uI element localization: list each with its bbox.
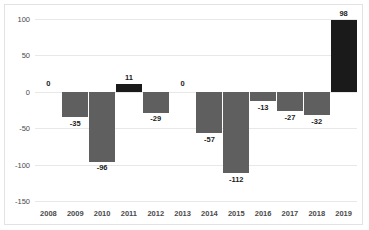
x-axis-tick-label-2019: 2019 — [335, 209, 352, 218]
bar-2018[interactable] — [304, 92, 330, 115]
x-axis-tick-label-2015: 2015 — [228, 209, 245, 218]
y-axis-tick-label: 50 — [22, 51, 30, 60]
y-axis-tick-label: -100 — [15, 160, 30, 169]
y-axis-tick-label: 100 — [17, 15, 30, 24]
data-label-2019: 98 — [339, 9, 347, 18]
bar-2016[interactable] — [250, 92, 276, 101]
gridline — [35, 165, 357, 166]
gridline — [35, 55, 357, 56]
x-axis-tick-label-2014: 2014 — [201, 209, 218, 218]
data-label-2014: -57 — [204, 135, 215, 144]
data-label-2017: -27 — [284, 113, 295, 122]
data-label-2016: -13 — [258, 103, 269, 112]
x-axis-tick-label-2012: 2012 — [147, 209, 164, 218]
plot-area: 100500-50-100-15002008-352009-9620101120… — [35, 19, 357, 201]
data-label-2011: 11 — [125, 73, 133, 82]
bar-2010[interactable] — [89, 92, 115, 162]
bar-2011[interactable] — [116, 84, 142, 92]
x-axis-tick-label-2008: 2008 — [40, 209, 57, 218]
y-axis-tick-label: -50 — [19, 124, 30, 133]
data-label-2015: -112 — [229, 175, 244, 184]
bar-2012[interactable] — [143, 92, 169, 113]
data-label-2012: -29 — [150, 114, 161, 123]
data-label-2018: -32 — [311, 117, 322, 126]
x-axis-tick-label-2018: 2018 — [308, 209, 325, 218]
x-axis-tick-label-2013: 2013 — [174, 209, 191, 218]
data-label-2010: -96 — [97, 163, 108, 172]
bar-2009[interactable] — [62, 92, 88, 117]
x-axis-tick-label-2011: 2011 — [121, 209, 137, 218]
chart-frame: 100500-50-100-15002008-352009-9620101120… — [4, 4, 363, 225]
x-axis-tick-label-2017: 2017 — [282, 209, 299, 218]
data-label-2008: 0 — [46, 79, 50, 88]
data-label-2013: 0 — [180, 79, 184, 88]
x-axis-tick-label-2016: 2016 — [255, 209, 272, 218]
bar-2019[interactable] — [331, 20, 357, 91]
x-axis-tick-label-2010: 2010 — [94, 209, 111, 218]
gridline — [35, 19, 357, 20]
bar-2014[interactable] — [196, 92, 222, 133]
y-axis-tick-label: 0 — [26, 87, 30, 96]
x-axis-tick-label-2009: 2009 — [67, 209, 84, 218]
gridline — [35, 201, 357, 202]
y-axis-tick-label: -150 — [15, 197, 30, 206]
data-label-2009: -35 — [70, 119, 81, 128]
bar-2015[interactable] — [223, 92, 249, 174]
bar-2017[interactable] — [277, 92, 303, 112]
